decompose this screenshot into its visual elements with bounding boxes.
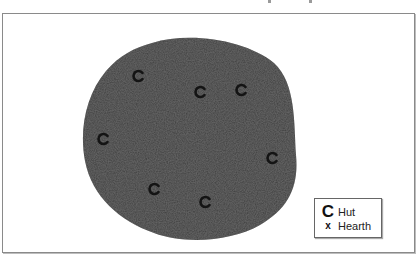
legend-label-hut: Hut (338, 206, 355, 218)
cropped-caption-fragments (0, 0, 418, 10)
hut-icon: C (321, 203, 335, 220)
hut-icon (198, 195, 212, 209)
legend-item-hearth: x Hearth (321, 220, 371, 232)
legend-item-hut: C Hut (321, 203, 355, 220)
hut-icon (265, 151, 279, 165)
hearth-icon: x (321, 220, 335, 232)
hut-icon (131, 69, 145, 83)
map-legend: C Hut x Hearth (314, 198, 382, 238)
hut-icon (193, 85, 207, 99)
settlement-area (82, 37, 300, 242)
hut-icon (234, 83, 248, 97)
caption-fragment (268, 0, 271, 3)
hut-icon (147, 182, 161, 196)
hut-icon (96, 132, 110, 146)
caption-fragment (309, 0, 312, 3)
settlement-blob (82, 37, 300, 242)
legend-label-hearth: Hearth (338, 220, 371, 232)
